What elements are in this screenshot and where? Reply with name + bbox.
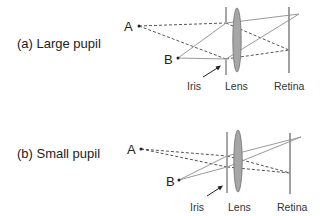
iris-arrow [203,67,219,77]
panel-large-pupil: (a) Large pupil A B Iris Lens Retina [17,7,305,92]
arrow-head-icon [216,66,222,71]
point-b [177,57,180,60]
iris-label: Iris [187,80,201,92]
lens [233,8,241,72]
lens-label: Lens [228,201,251,213]
ray-a-upper-in [141,149,227,156]
point-b-label: B [166,174,175,189]
caption-small-pupil: (b) Small pupil [17,146,100,161]
point-a-label: A [127,142,136,157]
point-a-label: A [124,19,133,34]
ray-b-upper-in [179,156,227,180]
iris-label: Iris [190,201,204,213]
panel-small-pupil: (b) Small pupil A B Iris Lens Retina [17,130,308,213]
point-a [140,148,143,151]
arrow-head-icon [218,186,224,191]
pupil-diagram: (a) Large pupil A B Iris Lens Retina ( [0,0,320,216]
retina-label: Retina [274,80,305,92]
ray-b-lower-in [178,58,226,59]
ray-b-upper-in [178,23,226,58]
ray-a-lower-in [141,149,227,167]
retina-label: Retina [277,201,308,213]
point-b-label: B [164,52,173,67]
caption-large-pupil: (a) Large pupil [17,36,101,51]
lens-label: Lens [225,80,248,92]
lens [234,130,242,192]
point-a [138,25,141,28]
ray-a-lower-in [139,26,226,59]
ray-a-upper-in [139,23,226,26]
point-b [178,179,181,182]
ray-b-lower-in [179,167,227,180]
